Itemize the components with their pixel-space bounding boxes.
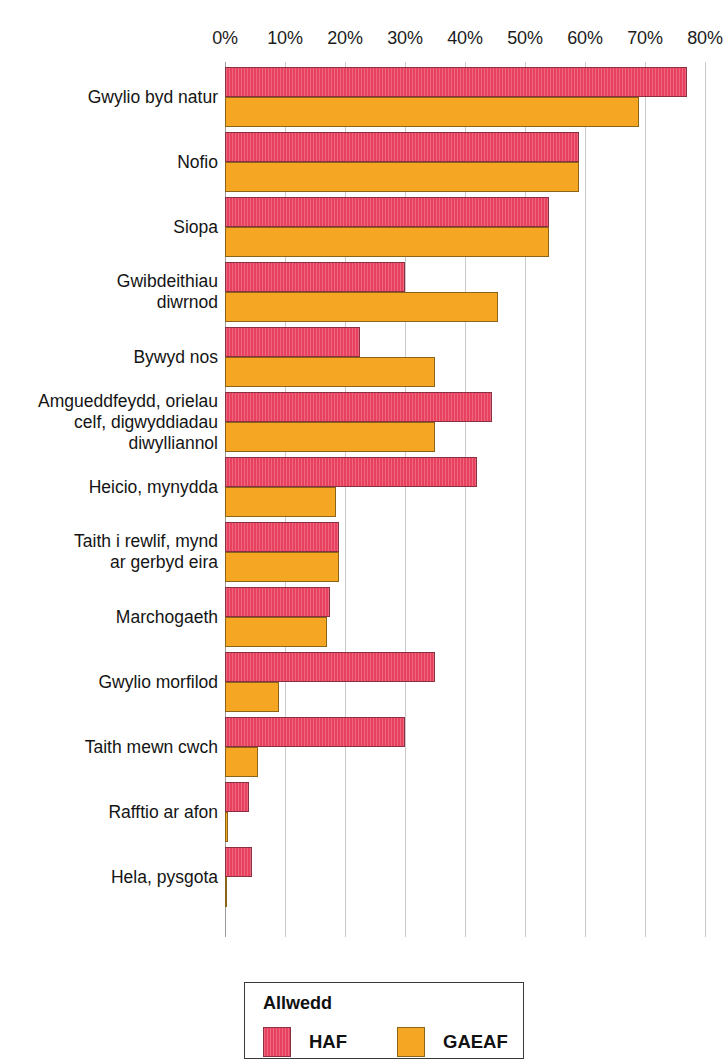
category-label: Rafftio ar afon	[0, 802, 218, 823]
category-label: Gwibdeithiau diwrnod	[0, 271, 218, 313]
gridline	[705, 62, 706, 937]
bar-haf	[225, 392, 492, 422]
legend-title: Allwedd	[263, 993, 332, 1014]
x-axis-tick-label: 60%	[567, 28, 602, 49]
bar-haf	[225, 782, 249, 812]
plot-area	[225, 62, 705, 937]
category-label: Marchogaeth	[0, 607, 218, 628]
x-axis-tick-label: 20%	[327, 28, 362, 49]
x-axis-tick-label: 10%	[267, 28, 302, 49]
bar-haf	[225, 67, 687, 97]
bar-group	[225, 197, 705, 257]
bar-haf	[225, 652, 435, 682]
orange-square-swatch-icon	[397, 1027, 425, 1057]
bar-gaeaf	[225, 617, 327, 647]
bar-gaeaf	[225, 292, 498, 322]
bar-gaeaf	[225, 552, 339, 582]
category-label: Taith i rewlif, mynd ar gerbyd eira	[0, 531, 218, 573]
x-axis-tick-label: 80%	[687, 28, 722, 49]
legend-entry-haf: HAF	[263, 1027, 347, 1057]
bar-group	[225, 262, 705, 322]
x-axis-tick-label: 30%	[387, 28, 422, 49]
bar-haf	[225, 262, 405, 292]
bar-group	[225, 587, 705, 647]
category-label: Siopa	[0, 217, 218, 238]
bar-haf	[225, 522, 339, 552]
category-label: Taith mewn cwch	[0, 737, 218, 758]
category-label: Bywyd nos	[0, 347, 218, 368]
legend: Allwedd HAF GAEAF	[244, 982, 524, 1059]
bar-gaeaf	[225, 487, 336, 517]
bar-gaeaf	[225, 877, 227, 907]
bar-haf	[225, 327, 360, 357]
bar-haf	[225, 717, 405, 747]
legend-label-gaeaf: GAEAF	[443, 1031, 508, 1053]
y-axis-category-labels: Gwylio byd naturNofioSiopaGwibdeithiau d…	[0, 62, 218, 937]
bar-gaeaf	[225, 162, 579, 192]
bar-gaeaf	[225, 682, 279, 712]
bar-gaeaf	[225, 812, 228, 842]
bar-group	[225, 782, 705, 842]
bar-group	[225, 457, 705, 517]
x-axis-tick-labels: 0%10%20%30%40%50%60%70%80%	[0, 28, 722, 52]
bar-group	[225, 522, 705, 582]
category-label: Amgueddfeydd, orielau celf, digwyddiadau…	[0, 391, 218, 454]
bar-gaeaf	[225, 357, 435, 387]
bar-group	[225, 717, 705, 777]
legend-label-haf: HAF	[309, 1031, 347, 1053]
x-axis-tick-label: 50%	[507, 28, 542, 49]
category-label: Gwylio morfilod	[0, 672, 218, 693]
bar-gaeaf	[225, 97, 639, 127]
bar-group	[225, 67, 705, 127]
category-label: Nofio	[0, 152, 218, 173]
category-label: Heicio, mynydda	[0, 477, 218, 498]
bar-haf	[225, 587, 330, 617]
x-axis-tick-label: 0%	[212, 28, 238, 49]
bar-gaeaf	[225, 747, 258, 777]
bar-group	[225, 327, 705, 387]
bar-haf	[225, 457, 477, 487]
bar-group	[225, 392, 705, 452]
bar-group	[225, 652, 705, 712]
bar-group	[225, 132, 705, 192]
red-square-swatch-icon	[263, 1027, 291, 1057]
x-axis-tick-label: 40%	[447, 28, 482, 49]
category-label: Hela, pysgota	[0, 867, 218, 888]
category-label: Gwylio byd natur	[0, 87, 218, 108]
legend-entry-gaeaf: GAEAF	[397, 1027, 508, 1057]
x-axis-tick-label: 70%	[627, 28, 662, 49]
bar-gaeaf	[225, 422, 435, 452]
bar-haf	[225, 197, 549, 227]
bar-group	[225, 847, 705, 907]
bar-haf	[225, 847, 252, 877]
bar-gaeaf	[225, 227, 549, 257]
bar-haf	[225, 132, 579, 162]
